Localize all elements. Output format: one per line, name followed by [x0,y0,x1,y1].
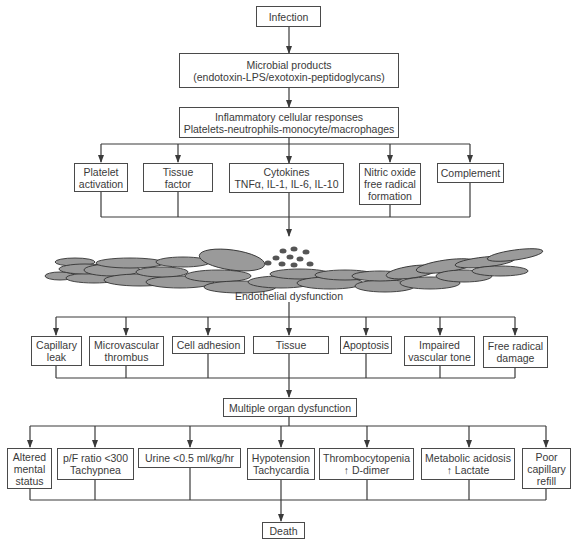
microvascular-thrombus-box: Microvascular thrombus [89,336,164,366]
mediator-text: TNFα, IL-1, IL-6, IL-10 [234,178,338,190]
leukocytes [265,247,314,268]
organ-text: refill [537,475,556,487]
free-radical-damage-box: Free radical damage [483,336,548,368]
apoptosis-box: Apoptosis [340,336,392,354]
organ-text: ↑ Lactate [447,464,490,476]
death-text: Death [269,525,297,537]
metabolic-acidosis-box: Metabolic acidosis ↑ Lactate [421,448,515,480]
endothelium-illustration [45,246,543,293]
cytokines-box: Cytokines TNFα, IL-1, IL-6, IL-10 [229,163,344,193]
organ-text: Thrombocytopenia [323,452,410,464]
effect-text: Tissue [276,339,307,351]
platelet-activation-box: Platelet activation [74,163,128,192]
mediator-text: free radical [364,178,416,190]
mediator-text: Tissue [163,166,194,178]
altered-mental-status-box: Altered mental status [7,448,52,489]
endothelial-dysfunction-label: Endothelial dysfunction [229,290,349,302]
nitric-oxide-box: Nitric oxide free radical formation [359,163,421,205]
organ-text: Poor [535,451,557,463]
organ-text: status [15,475,43,487]
tissue-factor-box: Tissue factor [143,163,213,192]
organ-text: capillary [527,463,566,475]
mediator-text: Nitric oxide [364,166,416,178]
organ-text: Hypotension [252,452,310,464]
organ-text: ↑ D-dimer [344,464,390,476]
complement-box: Complement [437,163,504,183]
microbial-products-line1: Microbial products [246,59,331,71]
death-box: Death [262,522,305,539]
effect-text: thrombus [105,351,149,363]
poor-capillary-refill-box: Poor capillary refill [522,448,571,489]
effect-text: Capillary [36,339,77,351]
inflammatory-line1: Inflammatory cellular responses [215,111,363,123]
infection-label: Infection [269,11,309,23]
effect-text: Cell adhesion [177,339,241,351]
mediator-text: formation [368,190,412,202]
impaired-vascular-tone-box: Impaired vascular tone [404,336,475,366]
organ-text: Urine <0.5 ml/kg/hr [145,452,234,464]
organ-text: Tachypnea [70,464,121,476]
organ-text: Tachycardia [253,464,309,476]
mediator-text: Complement [441,167,501,179]
cell-adhesion-box: Cell adhesion [172,336,245,354]
thrombocytopenia-box: Thrombocytopenia ↑ D-dimer [319,448,414,480]
effect-text: vascular tone [408,351,470,363]
effect-text: Microvascular [94,339,159,351]
effect-text: Apoptosis [343,339,389,351]
effect-text: damage [497,352,535,364]
mediator-text: factor [165,178,191,190]
organ-text: Metabolic acidosis [425,452,511,464]
organ-text: mental [14,463,46,475]
mediator-text: Platelet [83,166,118,178]
mods-text: Multiple organ dysfunction [229,402,351,414]
organ-text: Altered [13,451,46,463]
pf-ratio-box: p/F ratio <300 Tachypnea [57,448,134,480]
organ-text: p/F ratio <300 [63,452,128,464]
effect-text: Free radical [488,340,543,352]
effect-text: leak [47,351,66,363]
tissue-box: Tissue [253,336,329,354]
hypotension-box: Hypotension Tachycardia [247,448,315,480]
mediator-text: Cytokines [263,166,309,178]
microbial-products-box: Microbial products (endotoxin-LPS/exotox… [179,53,399,88]
urine-output-box: Urine <0.5 ml/kg/hr [138,448,241,468]
mediator-text: activation [79,178,123,190]
inflammatory-line2: Platelets-neutrophils-monocyte/macrophag… [184,123,395,135]
inflammatory-responses-box: Inflammatory cellular responses Platelet… [179,107,399,138]
capillary-leak-box: Capillary leak [31,336,82,366]
multiple-organ-dysfunction-box: Multiple organ dysfunction [223,398,357,417]
infection-box: Infection [256,6,321,27]
effect-text: Impaired [419,339,460,351]
microbial-products-line2: (endotoxin-LPS/exotoxin-peptidoglycans) [193,71,384,83]
